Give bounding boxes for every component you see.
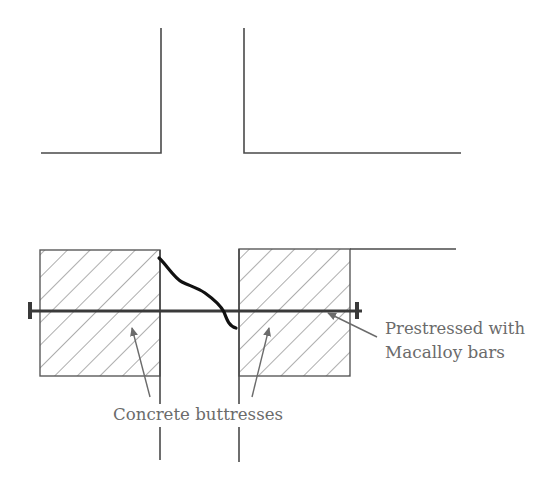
label-prestressed-line1: Prestressed with <box>385 318 525 338</box>
label-prestressed-line2: Macalloy bars <box>385 342 505 362</box>
anchor-plate-left <box>28 302 32 319</box>
crack-line <box>159 258 236 328</box>
structural-diagram: Concrete buttresses Prestressed with Mac… <box>0 0 554 485</box>
label-concrete-buttresses: Concrete buttresses <box>113 404 283 424</box>
wall-outline-top-right <box>244 28 461 153</box>
anchor-plate-right <box>355 302 359 319</box>
concrete-buttress-left <box>40 250 160 376</box>
wall-outline-top-left <box>41 28 161 153</box>
